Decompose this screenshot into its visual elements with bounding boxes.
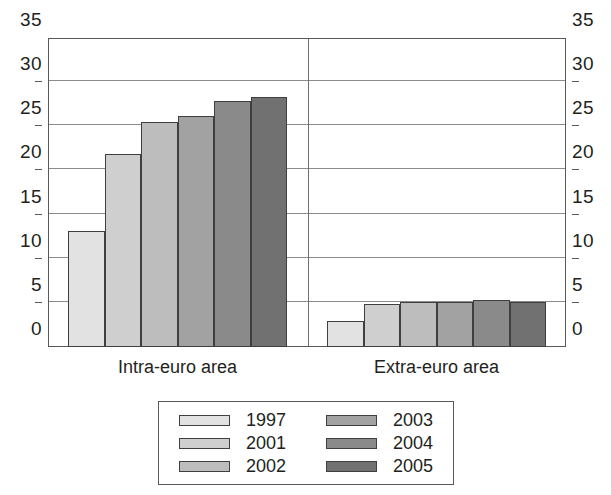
legend-item-2004[interactable]: 2004 bbox=[326, 432, 453, 454]
gridline-5 bbox=[49, 301, 565, 302]
gridline-20 bbox=[49, 168, 565, 169]
legend: 199720012002 200320042005 bbox=[158, 401, 454, 485]
x-category-label-0: Intra-euro area bbox=[48, 356, 307, 378]
y-tick-label-right-25: 25 bbox=[572, 98, 594, 117]
plot-area bbox=[48, 38, 566, 347]
gridline-15 bbox=[49, 213, 565, 214]
y-tick-label-left-20: 20 bbox=[20, 142, 42, 161]
legend-swatch-1997 bbox=[179, 415, 230, 426]
y-tick-mark-right-20 bbox=[572, 169, 579, 170]
legend-swatch-2003 bbox=[326, 415, 377, 426]
y-tick-label-left-5: 5 bbox=[31, 274, 42, 293]
y-tick-label-right-20: 20 bbox=[572, 142, 594, 161]
y-tick-mark-left-15 bbox=[35, 214, 42, 215]
legend-swatch-2004 bbox=[326, 438, 377, 449]
y-tick-mark-left-10 bbox=[35, 258, 42, 259]
y-tick-label-right-35: 35 bbox=[572, 10, 594, 29]
x-category-label-1: Extra-euro area bbox=[307, 356, 566, 378]
legend-label-1997: 1997 bbox=[246, 411, 286, 429]
y-tick-label-right-10: 10 bbox=[572, 230, 594, 249]
y-tick-mark-right-5 bbox=[572, 302, 579, 303]
gridline-25 bbox=[49, 124, 565, 125]
y-tick-mark-right-15 bbox=[572, 214, 579, 215]
legend-swatch-2001 bbox=[179, 438, 230, 449]
y-tick-label-right-30: 30 bbox=[572, 54, 594, 73]
y-tick-mark-left-30 bbox=[35, 81, 42, 82]
y-tick-label-left-25: 25 bbox=[20, 98, 42, 117]
y-tick-label-right-5: 5 bbox=[572, 274, 583, 293]
legend-item-2005[interactable]: 2005 bbox=[326, 455, 453, 477]
gridline-30 bbox=[49, 80, 565, 81]
y-tick-label-left-35: 35 bbox=[20, 10, 42, 29]
bar-chart: 05101520253035 05101520253035 Intra-euro… bbox=[0, 0, 611, 495]
legend-swatch-2005 bbox=[326, 461, 377, 472]
y-tick-label-left-15: 15 bbox=[20, 186, 42, 205]
y-tick-label-left-30: 30 bbox=[20, 54, 42, 73]
y-tick-label-right-0: 0 bbox=[572, 319, 583, 338]
y-tick-mark-right-30 bbox=[572, 81, 579, 82]
y-tick-label-left-10: 10 bbox=[20, 230, 42, 249]
legend-label-2001: 2001 bbox=[246, 434, 286, 452]
y-tick-label-left-0: 0 bbox=[31, 319, 42, 338]
legend-item-1997[interactable]: 1997 bbox=[179, 409, 306, 431]
y-tick-mark-left-25 bbox=[35, 125, 42, 126]
legend-item-2001[interactable]: 2001 bbox=[179, 432, 306, 454]
legend-column-right: 200320042005 bbox=[306, 409, 453, 477]
legend-label-2003: 2003 bbox=[393, 411, 433, 429]
gridline-10 bbox=[49, 257, 565, 258]
legend-label-2002: 2002 bbox=[246, 457, 286, 475]
y-tick-mark-right-25 bbox=[572, 125, 579, 126]
legend-label-2004: 2004 bbox=[393, 434, 433, 452]
legend-item-2003[interactable]: 2003 bbox=[326, 409, 453, 431]
group-divider bbox=[308, 39, 309, 346]
legend-column-left: 199720012002 bbox=[159, 409, 306, 477]
y-tick-label-right-15: 15 bbox=[572, 186, 594, 205]
y-tick-mark-left-5 bbox=[35, 302, 42, 303]
y-tick-mark-left-20 bbox=[35, 169, 42, 170]
legend-swatch-2002 bbox=[179, 461, 230, 472]
legend-label-2005: 2005 bbox=[393, 457, 433, 475]
legend-item-2002[interactable]: 2002 bbox=[179, 455, 306, 477]
y-tick-mark-right-10 bbox=[572, 258, 579, 259]
